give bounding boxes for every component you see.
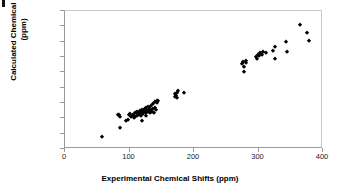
- data-point: [283, 40, 288, 45]
- data-points-layer: [65, 11, 321, 147]
- data-point: [175, 96, 180, 101]
- x-tick-label: 400: [302, 152, 340, 161]
- data-point: [117, 114, 122, 119]
- scatter-chart: Calculated Chemical Shifts (ppm) 0.050.0…: [0, 0, 340, 195]
- data-point: [298, 22, 303, 27]
- x-tick-mark: [193, 148, 194, 152]
- data-point: [242, 69, 247, 74]
- x-tick-label: 200: [173, 152, 213, 161]
- y-axis-title-line2: (ppm): [18, 0, 28, 100]
- x-tick-label: 100: [109, 152, 149, 161]
- x-axis-title: Experimental Chemical Shifts (ppm): [0, 174, 340, 183]
- data-point: [304, 31, 309, 36]
- corner-artifact: [2, 0, 5, 7]
- data-point: [270, 49, 275, 54]
- x-tick-mark: [258, 148, 259, 152]
- y-axis-title: Calculated Chemical Shifts (ppm): [9, 0, 28, 100]
- x-tick-mark: [322, 148, 323, 152]
- data-point: [306, 39, 311, 44]
- data-point: [140, 118, 145, 123]
- data-point: [118, 126, 123, 131]
- x-tick-label: 0: [44, 152, 84, 161]
- x-tick-label: 300: [238, 152, 278, 161]
- data-point: [284, 50, 289, 55]
- y-axis-title-line1: Calculated Chemical Shifts: [9, 0, 19, 100]
- data-point: [154, 107, 159, 112]
- x-tick-mark: [64, 148, 65, 152]
- data-point: [99, 134, 104, 139]
- plot-area: [64, 10, 322, 148]
- data-point: [181, 90, 186, 95]
- x-tick-mark: [129, 148, 130, 152]
- data-point: [273, 56, 278, 61]
